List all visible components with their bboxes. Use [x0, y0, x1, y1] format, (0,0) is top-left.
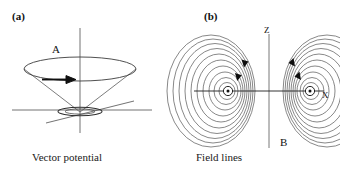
panel-a-vector-potential: (a) [0, 0, 170, 174]
left-current-marker [223, 86, 232, 95]
panel-b-drawing [170, 0, 340, 174]
arrowhead-right-outer [289, 58, 296, 67]
panel-a-drawing [0, 0, 170, 174]
panel-a-caption: Vector potential [32, 151, 102, 163]
magnetic-field-label: B [280, 136, 287, 148]
figure-vector-potential-and-field-lines: (a) [0, 0, 340, 174]
x-axis-label: X [322, 90, 329, 100]
circulation-arrow [42, 76, 76, 84]
panel-b-field-lines: (b) [170, 0, 340, 174]
right-current-marker [305, 86, 314, 95]
z-axis-label: Z [264, 25, 270, 35]
vector-potential-label: A [52, 43, 60, 55]
panel-b-caption: Field lines [196, 151, 242, 163]
